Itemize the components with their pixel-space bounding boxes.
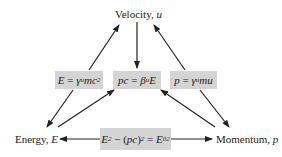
node-velocity-symbol: u [156, 8, 162, 20]
node-energy: Energy, E [15, 133, 58, 145]
eq-minus: − ( [111, 133, 126, 145]
node-momentum: Momentum, p [216, 133, 278, 145]
arrow-momentum-eq-to-momentum [200, 90, 229, 127]
eq-sign: = [128, 74, 140, 86]
arrow-momentum-eq-to-velocity [154, 25, 185, 70]
node-velocity-label: Velocity, [115, 8, 156, 20]
eq-rest-energy-sup: 2 [166, 135, 170, 143]
eq-rest: mc [84, 74, 97, 86]
arrow-energy-to-pc-eq [58, 90, 114, 127]
node-velocity: Velocity, u [115, 8, 162, 20]
eq-superscript: 2 [97, 76, 101, 84]
eq-lhs: E [58, 74, 65, 86]
node-momentum-symbol: p [273, 133, 279, 145]
energy-equation-box: E = γumc2 [55, 71, 103, 89]
arrow-energy-eq-to-energy [47, 90, 73, 127]
node-energy-symbol: E [51, 133, 58, 145]
node-momentum-label: Momentum, [216, 133, 273, 145]
eq-sign: = [64, 74, 76, 86]
eq-pc: pc [127, 133, 137, 145]
arrow-momentum-to-pc-eq [161, 90, 215, 127]
eq-rest-energy: E [156, 133, 163, 145]
momentum-equation-box: p = γumu [170, 71, 217, 89]
eq-energy: E [101, 133, 108, 145]
eq-rest: E [149, 74, 156, 86]
pc-equation-box: pc = βuE [113, 71, 161, 89]
eq-sign: = [180, 74, 192, 86]
eq-rest: mu [199, 74, 212, 86]
eq-lhs: pc [118, 74, 128, 86]
node-energy-label: Energy, [15, 133, 51, 145]
eq-sign: = [144, 133, 156, 145]
invariant-equation-box: E2 − (pc)2 = E02 [100, 128, 171, 150]
arrow-energy-eq-to-velocity [89, 25, 119, 70]
